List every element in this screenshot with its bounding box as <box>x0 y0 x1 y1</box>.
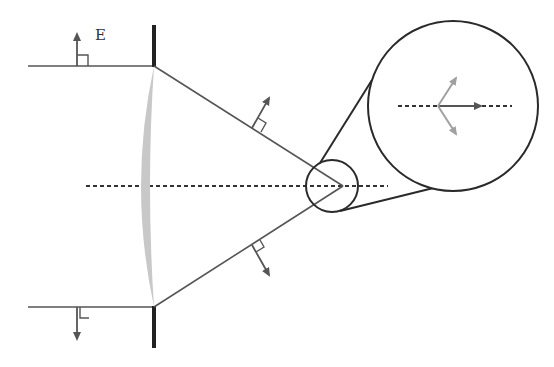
zoom-connector-top <box>320 80 372 163</box>
diagram-canvas: E <box>0 0 554 367</box>
field-arrow-bottom-icon <box>77 307 89 339</box>
field-arrow-converging-bottom-icon <box>252 240 269 275</box>
field-label: E <box>95 26 106 44</box>
field-arrow-top-icon <box>77 34 88 66</box>
field-arrow-converging-top-icon <box>252 98 269 132</box>
